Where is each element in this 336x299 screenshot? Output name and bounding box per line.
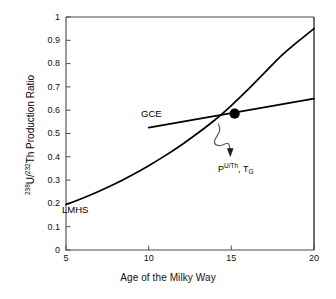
y-axis-title-wrapper: 238U/232Th Production Ratio xyxy=(20,20,36,250)
annotation-sub-g: G xyxy=(248,168,253,175)
y-axis-title-sup-232: 232 xyxy=(24,163,31,174)
production-ratio-annotation-label: PU/Th, TG xyxy=(218,162,254,175)
y-axis-title-sup-238: 238 xyxy=(24,184,31,195)
x-axis-title: Age of the Milky Way xyxy=(0,272,336,283)
xtick-label-5: 5 xyxy=(54,253,78,263)
intersection-point-marker xyxy=(230,109,240,119)
x-axis-ticks xyxy=(66,246,314,251)
y-axis-title-rest: Th Production Ratio xyxy=(25,75,36,163)
xtick-label-20: 20 xyxy=(302,253,326,263)
annotation-sup-uth: U/Th xyxy=(224,162,238,169)
series-label-lmhs: LMHS xyxy=(62,204,88,215)
y-axis-title-mid: U/ xyxy=(25,174,36,184)
series-lmhs-curve xyxy=(66,29,314,205)
y-axis-title: 238U/232Th Production Ratio xyxy=(24,75,36,195)
plot-frame xyxy=(66,17,314,250)
series-label-gce: GCE xyxy=(141,108,162,119)
xtick-label-15: 15 xyxy=(219,253,243,263)
chart-figure: 1 0.9 0.8 0.7 0.6 0.5 0.4 0.3 0.2 0.1 0 … xyxy=(0,0,336,299)
xtick-label-10: 10 xyxy=(137,253,161,263)
annotation-leader xyxy=(214,124,233,157)
y-axis-ticks xyxy=(66,17,71,250)
